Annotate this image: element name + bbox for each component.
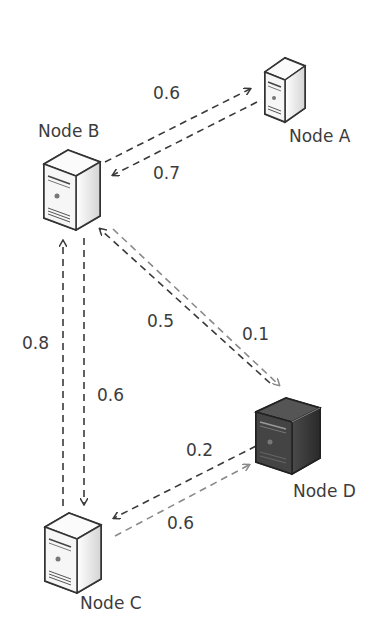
server-icon-node-b: [44, 150, 100, 230]
weight-d-to-b: 0.5: [147, 311, 174, 331]
edges-layer: [0, 0, 380, 637]
network-diagram: Node A Node B Node C Node D 0.6 0.7 0.5 …: [0, 0, 380, 637]
weight-c-to-b: 0.8: [22, 333, 49, 353]
node-c-label: Node C: [80, 593, 142, 613]
node-d-label: Node D: [293, 481, 356, 501]
weight-b-to-d: 0.1: [242, 324, 269, 344]
server-icon-node-d: [256, 398, 320, 474]
edge-d-to-b: [100, 229, 270, 383]
weight-b-to-c: 0.6: [97, 385, 124, 405]
node-a-label: Node A: [289, 126, 350, 146]
edge-d-to-c: [114, 446, 256, 518]
weight-b-to-a: 0.6: [153, 83, 180, 103]
server-icon-node-c: [45, 513, 101, 593]
edge-a-to-b: [113, 102, 257, 175]
edge-b-to-d: [113, 229, 279, 385]
weight-d-to-c: 0.2: [186, 440, 213, 460]
weight-a-to-b: 0.7: [153, 163, 180, 183]
node-b-label: Node B: [38, 121, 99, 141]
weight-c-to-d: 0.6: [167, 513, 194, 533]
server-icon-node-a: [265, 58, 305, 122]
